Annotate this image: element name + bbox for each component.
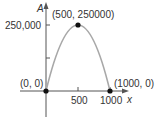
point-label-vertex: (500, 250000) — [52, 9, 114, 20]
point-label-right: (1000, 0) — [114, 78, 154, 89]
x-tick-label-500: 500 — [71, 95, 88, 106]
y-axis-label: A — [36, 3, 44, 14]
point-right — [107, 88, 112, 93]
y-axis-arrow-icon — [44, 2, 49, 9]
parabola-curve — [46, 25, 110, 91]
y-tick-label-250000: 250,000 — [5, 20, 42, 31]
point-label-origin: (0, 0) — [20, 78, 43, 89]
x-axis-arrow-icon — [122, 89, 129, 94]
x-tick-label-1000: 1000 — [100, 95, 123, 106]
point-vertex — [75, 22, 80, 27]
parabola-chart: A x 250,000 500 1000 (0, 0) (500, 250000… — [0, 0, 162, 127]
x-axis-label: x — [126, 94, 133, 105]
point-origin — [43, 88, 48, 93]
